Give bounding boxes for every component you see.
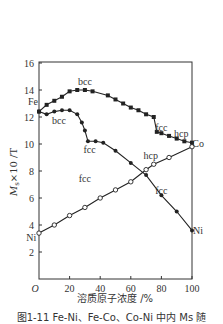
data-point <box>68 108 72 112</box>
annotation-label: Ni <box>193 225 203 236</box>
data-point <box>136 108 140 112</box>
data-point <box>167 155 171 159</box>
data-point <box>45 103 49 107</box>
data-point <box>129 106 133 110</box>
y-tick-label: 8 <box>29 166 34 177</box>
annotation-label: hcp <box>143 150 157 161</box>
plot-frame <box>39 62 192 279</box>
y-tick-label: 6 <box>29 193 34 204</box>
annotation-label: fcc <box>83 144 96 155</box>
data-point <box>152 162 156 166</box>
data-point <box>114 97 118 101</box>
data-point <box>52 99 56 103</box>
data-series <box>37 88 194 235</box>
series-fe-ni <box>37 108 194 232</box>
data-point <box>101 141 105 145</box>
data-point <box>68 89 72 93</box>
data-point <box>91 89 95 93</box>
annotation-label: Ni <box>26 232 36 243</box>
data-point <box>37 231 41 235</box>
data-point <box>129 161 133 165</box>
data-point <box>83 129 87 133</box>
data-point <box>75 112 79 116</box>
data-point <box>45 112 49 116</box>
data-point <box>144 173 148 177</box>
data-point <box>52 223 56 227</box>
data-point <box>114 149 118 153</box>
x-tick-label: 100 <box>185 283 200 294</box>
plot-border <box>39 62 192 279</box>
data-point <box>86 139 90 143</box>
y-tick-label: 4 <box>29 220 34 231</box>
data-point <box>106 93 110 97</box>
data-point <box>144 167 148 171</box>
data-point <box>152 115 156 119</box>
ms-concentration-chart: 246810121416 O20406080100 Febccbccfccfcc… <box>0 0 223 324</box>
y-tick-label: 2 <box>29 247 34 258</box>
figure-caption: 图1-11 Fe-Ni、Fe-Co、Co-Ni 中内 Ms 随 <box>0 309 223 324</box>
y-tick-label: 16 <box>24 58 34 69</box>
series-line <box>39 110 192 230</box>
data-point <box>167 134 171 138</box>
annotation-label: hcp <box>174 128 188 139</box>
data-point <box>75 88 79 92</box>
data-point <box>129 180 133 184</box>
data-point <box>182 139 186 143</box>
annotation-label: bcc <box>78 76 92 87</box>
y-tick-label: 10 <box>24 139 34 150</box>
data-point <box>80 120 84 124</box>
annotation-label: fcc <box>79 173 92 184</box>
data-point <box>83 88 87 92</box>
data-point <box>37 110 41 114</box>
series-co-ni <box>37 145 194 236</box>
annotation-label: bcc <box>52 115 66 126</box>
data-point <box>144 112 148 116</box>
y-axis-label: Ms×10 /T <box>8 148 21 197</box>
annotation-label: Fe <box>28 96 39 107</box>
annotation-label: fcc <box>155 122 168 133</box>
x-tick-label: 80 <box>156 283 166 294</box>
data-point <box>94 139 98 143</box>
data-point <box>60 95 64 99</box>
data-point <box>52 110 56 114</box>
data-point <box>113 188 117 192</box>
annotation-label: fcc <box>155 185 168 196</box>
x-tick-label: 20 <box>65 283 75 294</box>
x-tick-label: O <box>31 283 38 294</box>
data-point <box>98 196 102 200</box>
data-point <box>83 205 87 209</box>
annotation-label: Co <box>192 138 204 149</box>
y-tick-label: 14 <box>24 85 34 96</box>
data-point <box>60 108 64 112</box>
data-point <box>67 213 71 217</box>
data-point <box>175 210 179 214</box>
data-point <box>121 102 125 106</box>
x-axis-label: 溶质原子浓度 /% <box>77 292 153 304</box>
y-tick-label: 12 <box>24 112 34 123</box>
